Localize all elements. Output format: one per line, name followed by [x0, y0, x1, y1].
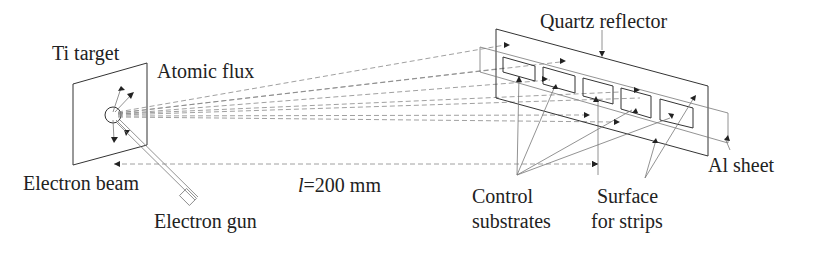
label-atomic-flux: Atomic flux: [157, 60, 254, 82]
label-control-substrates-2: substrates: [472, 210, 551, 232]
label-electron-beam: Electron beam: [23, 172, 139, 194]
label-al-sheet: Al sheet: [708, 154, 775, 176]
label-ti-target: Ti target: [52, 42, 120, 65]
label-surface-strips-2: for strips: [591, 210, 663, 233]
sputtering-setup-diagram: Ti target Atomic flux Electron beam Elec…: [0, 0, 814, 258]
ti-target-plate: [73, 63, 147, 165]
atomic-flux-beams: [118, 45, 640, 122]
label-surface-strips-1: Surface: [597, 185, 658, 207]
electron-gun: [180, 189, 197, 206]
label-electron-gun: Electron gun: [154, 210, 257, 233]
label-distance: l=200 mm: [298, 174, 381, 196]
label-control-substrates-1: Control: [472, 185, 534, 207]
label-pointers: [517, 30, 730, 178]
label-quartz-reflector: Quartz reflector: [540, 10, 667, 32]
